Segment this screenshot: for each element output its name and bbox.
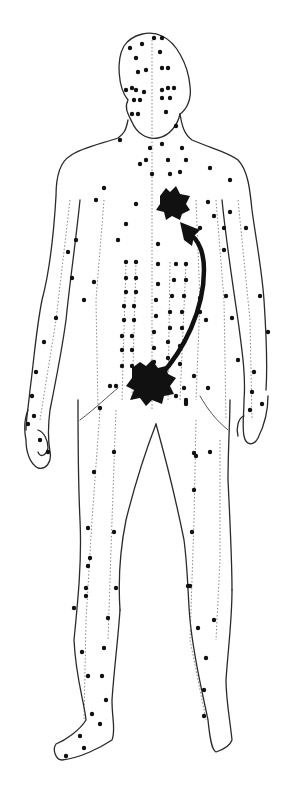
acupuncture-point — [156, 262, 160, 266]
acupuncture-point — [54, 316, 58, 320]
acupuncture-point — [148, 146, 152, 150]
acupuncture-point — [124, 222, 128, 226]
acupuncture-point — [174, 394, 178, 398]
acupuncture-point — [140, 42, 144, 46]
acupuncture-point — [70, 276, 74, 280]
acupuncture-point — [98, 406, 102, 410]
acupuncture-point — [230, 316, 234, 320]
acupuncture-point — [26, 422, 30, 426]
acupuncture-point — [212, 618, 216, 622]
acupuncture-point — [124, 290, 128, 294]
acupuncture-point — [202, 714, 206, 718]
flow-arrow-shaft — [160, 234, 204, 376]
acupuncture-point — [168, 96, 172, 100]
acupuncture-point — [166, 66, 170, 70]
acupuncture-point — [124, 88, 128, 92]
acupuncture-point — [136, 112, 140, 116]
acupuncture-point — [106, 616, 110, 620]
body-meridian-figure — [0, 0, 289, 791]
acupuncture-point — [252, 370, 256, 374]
acupuncture-point — [152, 36, 156, 40]
acupuncture-point — [92, 280, 96, 284]
acupuncture-point — [134, 202, 138, 206]
upper-center-blob — [156, 186, 190, 220]
acupuncture-point — [92, 470, 96, 474]
acupuncture-point — [74, 238, 78, 242]
acupuncture-point — [164, 110, 168, 114]
acupuncture-point — [180, 326, 184, 330]
acupuncture-point — [34, 370, 38, 374]
acupuncture-point — [168, 172, 172, 176]
acupuncture-point — [166, 86, 170, 90]
acupuncture-point — [38, 438, 42, 442]
acupuncture-point — [134, 290, 138, 294]
acupuncture-point — [78, 734, 82, 738]
acupuncture-point — [132, 304, 136, 308]
acupuncture-point — [182, 294, 186, 298]
acupuncture-point — [206, 386, 210, 390]
highlight-upper-chest — [156, 186, 190, 220]
acupuncture-point — [64, 754, 68, 758]
acupuncture-point — [182, 386, 186, 390]
acupuncture-point — [266, 330, 270, 334]
acupuncture-point — [180, 310, 184, 314]
acupuncture-point — [134, 88, 138, 92]
acupuncture-point — [88, 556, 92, 560]
acupuncture-point — [224, 294, 228, 298]
acupuncture-point — [46, 450, 50, 454]
meridian-line — [108, 410, 116, 640]
acupuncture-point — [114, 384, 118, 388]
acupuncture-point — [228, 178, 232, 182]
acupuncture-point — [136, 70, 140, 74]
acupuncture-point — [178, 362, 182, 366]
acupuncture-point — [132, 318, 136, 322]
acupuncture-point — [160, 96, 164, 100]
acupuncture-point — [184, 278, 188, 282]
acupuncture-point — [228, 210, 232, 214]
acupuncture-point — [130, 112, 134, 116]
acupuncture-point — [130, 334, 134, 338]
acupuncture-point — [130, 86, 134, 90]
acupuncture-point — [178, 170, 182, 174]
meridian-line — [180, 262, 186, 400]
acupuncture-point — [116, 238, 120, 242]
acupuncture-point — [250, 390, 254, 394]
acupuncture-point — [156, 282, 160, 286]
acupuncture-point — [236, 358, 240, 362]
acupuncture-point — [132, 98, 136, 102]
acupuncture-point — [84, 594, 88, 598]
acupuncture-point — [114, 586, 118, 590]
acupuncture-point — [172, 278, 176, 282]
acupuncture-point — [32, 414, 36, 418]
acupuncture-point — [248, 408, 252, 412]
acupuncture-point — [204, 318, 208, 322]
flow-arrow — [160, 222, 204, 376]
acupuncture-point — [188, 584, 192, 588]
acupuncture-point — [158, 50, 162, 54]
acupuncture-point — [174, 124, 178, 128]
acupuncture-point — [160, 36, 164, 40]
acupuncture-point — [212, 214, 216, 218]
acupuncture-point — [260, 402, 264, 406]
acupuncture-point — [166, 158, 170, 162]
acupuncture-point — [192, 374, 196, 378]
acupuncture-point — [108, 384, 112, 388]
acupuncture-point — [154, 298, 158, 302]
acupuncture-point — [122, 304, 126, 308]
acupuncture-point — [118, 138, 122, 142]
acupuncture-point — [84, 586, 88, 590]
acupuncture-point — [160, 88, 164, 92]
acupuncture-point — [222, 248, 226, 252]
acupuncture-point — [120, 334, 124, 338]
acupuncture-point — [82, 298, 86, 302]
acupuncture-point — [208, 450, 212, 454]
acupuncture-point — [150, 172, 154, 176]
acupuncture-point — [98, 722, 102, 726]
acupuncture-point — [72, 606, 76, 610]
acupuncture-point — [174, 262, 178, 266]
acupuncture-point — [82, 746, 86, 750]
acupuncture-point — [152, 346, 156, 350]
acupuncture-point — [160, 142, 164, 146]
right-arm-outline — [222, 200, 268, 444]
acupuncture-point — [194, 454, 198, 458]
